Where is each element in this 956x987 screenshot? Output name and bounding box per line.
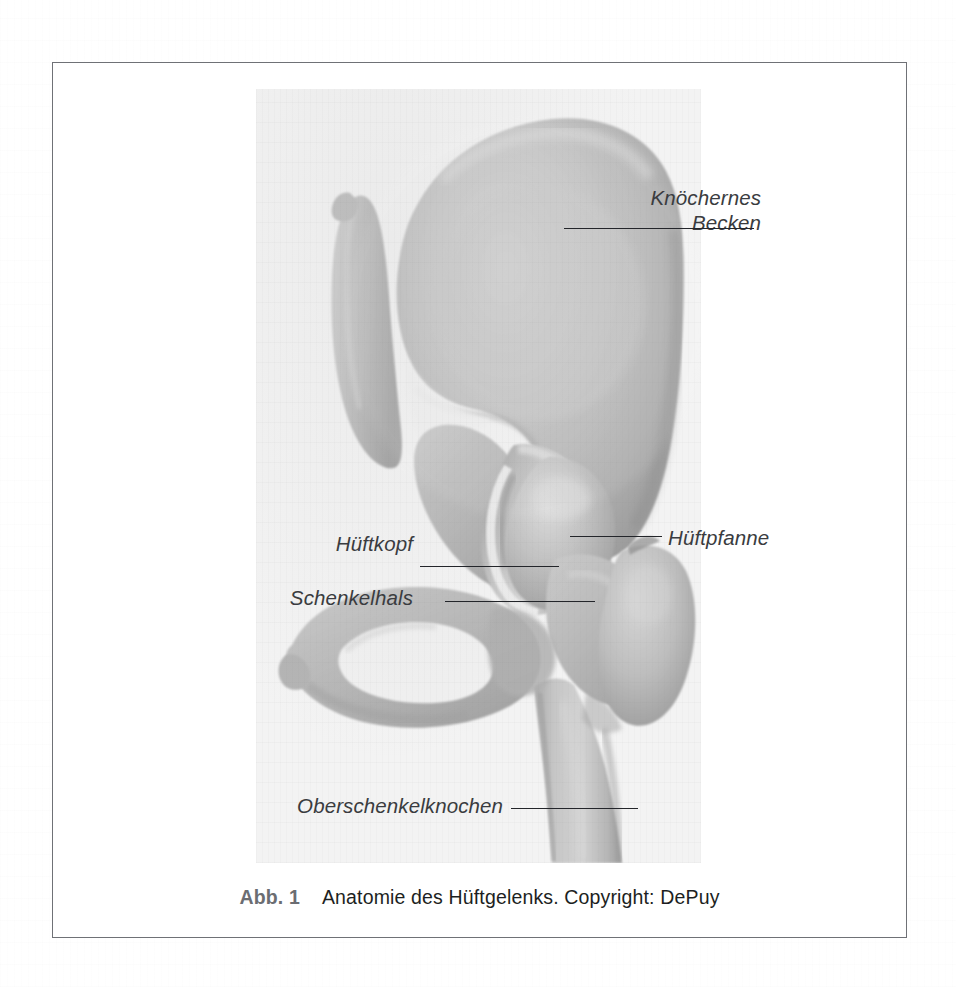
label-schenkelhals: Schenkelhals xyxy=(203,585,413,610)
figure-caption-number: Abb. 1 xyxy=(239,886,300,908)
label-oberschenkelknochen: Oberschenkelknochen xyxy=(253,793,503,818)
figure-caption: Abb. 1Anatomie des Hüftgelenks. Copyrigh… xyxy=(53,886,906,909)
leader-line-hueftkopf xyxy=(420,566,559,567)
label-hueftpfanne: Hüftpfanne xyxy=(668,525,769,550)
label-hueftkopf: Hüftkopf xyxy=(243,531,413,556)
leader-line-schenkelhals xyxy=(445,601,595,602)
label-line-2: Becken xyxy=(631,210,761,235)
figure-caption-text: Anatomie des Hüftgelenks. Copyright: DeP… xyxy=(322,886,720,908)
leader-line-oberschenkelknochen xyxy=(511,808,638,809)
leader-line-knoechernes-becken xyxy=(564,228,754,229)
leader-line-hueftpfanne xyxy=(570,536,662,537)
label-line-1: Knöchernes xyxy=(631,185,761,210)
figure-frame: Knöchernes Becken Hüftpfanne Hüftkopf Sc… xyxy=(52,62,907,938)
